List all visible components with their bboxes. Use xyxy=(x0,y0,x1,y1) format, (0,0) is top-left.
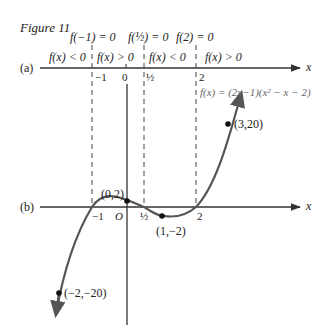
point-label-1-neg2: (1,−2) xyxy=(156,224,186,239)
axis-a-tick-2: 2 xyxy=(199,71,205,83)
part-a-label: (a) xyxy=(20,61,33,76)
axis-b-tick-2: 2 xyxy=(197,210,203,222)
point-label-3-20: (3,20) xyxy=(234,117,263,132)
zero-dashed-lines xyxy=(92,45,196,207)
axis-b-tick-half: ½ xyxy=(140,210,148,222)
axis-a-tick-0-label: 0 xyxy=(122,71,128,83)
sign-label-3: f(x) < 0 xyxy=(149,50,186,65)
point-1-neg2 xyxy=(159,213,165,219)
axis-a-x-label: x xyxy=(306,60,311,75)
axis-b-x-label: x xyxy=(306,199,311,214)
point-3-20 xyxy=(225,121,231,127)
axis-a-tick-neg1: −1 xyxy=(95,71,107,83)
function-label: f(x) = (2x−1)(x² − x − 2) xyxy=(200,86,311,98)
axis-b-origin: O xyxy=(115,210,123,222)
sign-label-1: f(x) < 0 xyxy=(49,50,86,65)
point-neg2-neg20 xyxy=(56,290,62,296)
zero-label-neg1: f(−1) = 0 xyxy=(70,30,116,45)
point-0-2 xyxy=(124,198,130,204)
part-b-label: (b) xyxy=(20,200,34,215)
curve-lower-arrow xyxy=(56,293,59,314)
cubic-curve xyxy=(56,94,241,314)
point-label-neg2-neg20: (−2,−20) xyxy=(64,286,107,301)
figure-11: Figure 11 f(−1) = 0 f(½) = 0 f(2) = 0 f(… xyxy=(0,0,329,334)
zero-label-half: f(½) = 0 xyxy=(128,30,168,45)
sign-label-2: f(x) > 0 xyxy=(97,50,134,65)
axis-b-tick-neg1: −1 xyxy=(92,210,104,222)
point-label-0-2: (0,2) xyxy=(101,187,124,202)
axis-a-tick-half: ½ xyxy=(146,71,154,83)
zero-label-2: f(2) = 0 xyxy=(176,30,213,45)
sign-label-4: f(x) > 0 xyxy=(205,50,242,65)
figure-title: Figure 11 xyxy=(20,20,70,36)
